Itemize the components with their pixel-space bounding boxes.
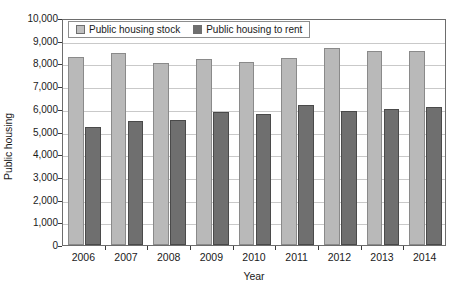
- bar-public-housing-stock: [239, 62, 255, 245]
- y-axis-tick-label: 7,000: [14, 82, 58, 92]
- x-axis-tick-label: 2012: [318, 251, 361, 263]
- bar-group: [106, 20, 149, 245]
- bar-group: [404, 20, 447, 245]
- y-axis-tick-mark: [58, 87, 62, 88]
- x-axis-tick-mark: [361, 246, 362, 250]
- bar-public-housing-to-rent: [256, 114, 272, 245]
- x-axis-tick-mark: [275, 246, 276, 250]
- bar-public-housing-stock: [153, 63, 169, 245]
- y-axis-tick-label: 0: [14, 241, 58, 251]
- legend-swatch-stock-icon: [76, 25, 85, 34]
- bar-public-housing-stock: [68, 57, 84, 245]
- y-axis-tick-label: 5,000: [14, 128, 58, 138]
- y-axis-tick-mark: [58, 223, 62, 224]
- bar-public-housing-to-rent: [298, 105, 314, 245]
- bar-public-housing-to-rent: [170, 120, 186, 245]
- y-axis-tick-mark: [58, 42, 62, 43]
- bar-public-housing-stock: [367, 51, 383, 245]
- plot-area: [62, 19, 446, 246]
- bar-chart: Public housing 01,0002,0003,0004,0005,00…: [0, 0, 463, 293]
- bar-public-housing-stock: [196, 59, 212, 245]
- y-axis-tick-mark: [58, 246, 62, 247]
- y-axis-tick-mark: [58, 155, 62, 156]
- x-axis-tick-label: 2009: [190, 251, 233, 263]
- x-axis-tick-label: 2008: [147, 251, 190, 263]
- y-axis-tick-labels: 01,0002,0003,0004,0005,0006,0007,0008,00…: [14, 0, 58, 293]
- x-axis-title: Year: [62, 270, 446, 282]
- bar-group: [319, 20, 362, 245]
- bar-group: [276, 20, 319, 245]
- bar-group: [234, 20, 277, 245]
- y-axis-tick-label: 9,000: [14, 37, 58, 47]
- bar-public-housing-stock: [409, 51, 425, 245]
- legend-entry: Public housing to rent: [193, 25, 302, 35]
- x-axis-tick-mark: [233, 246, 234, 250]
- y-axis-tick-mark: [58, 133, 62, 134]
- legend-label: Public housing to rent: [206, 25, 302, 35]
- legend-label: Public housing stock: [89, 25, 180, 35]
- bar-public-housing-to-rent: [341, 111, 357, 245]
- x-axis-tick-mark: [190, 246, 191, 250]
- bar-public-housing-to-rent: [426, 107, 442, 245]
- legend-swatch-rent-icon: [193, 25, 202, 34]
- x-axis-tick-mark: [105, 246, 106, 250]
- y-axis-tick-label: 6,000: [14, 105, 58, 115]
- bars-layer: [63, 20, 445, 245]
- x-axis-tick-mark: [147, 246, 148, 250]
- x-axis-tick-labels: 200620072008200920102011201220132014: [62, 251, 446, 265]
- y-axis-tick-label: 8,000: [14, 59, 58, 69]
- legend-entry: Public housing stock: [76, 25, 180, 35]
- x-axis-tick-mark: [318, 246, 319, 250]
- y-axis-tick-mark: [58, 64, 62, 65]
- bar-public-housing-stock: [324, 48, 340, 245]
- bar-public-housing-stock: [111, 53, 127, 245]
- x-axis-tick-label: 2007: [105, 251, 148, 263]
- y-axis-tick-label: 1,000: [14, 218, 58, 228]
- bar-public-housing-to-rent: [384, 109, 400, 245]
- y-axis-tick-label: 10,000: [14, 14, 58, 24]
- y-axis-tick-mark: [58, 178, 62, 179]
- bar-group: [148, 20, 191, 245]
- bar-group: [362, 20, 405, 245]
- y-axis-tick-label: 2,000: [14, 196, 58, 206]
- bar-public-housing-to-rent: [128, 121, 144, 245]
- y-axis-tick-mark: [58, 19, 62, 20]
- bar-public-housing-stock: [281, 58, 297, 245]
- bar-group: [191, 20, 234, 245]
- y-axis-tick-mark: [58, 201, 62, 202]
- x-axis-tick-label: 2006: [62, 251, 105, 263]
- bar-public-housing-to-rent: [213, 112, 229, 245]
- chart-legend: Public housing stockPublic housing to re…: [68, 21, 310, 38]
- x-axis-tick-label: 2010: [233, 251, 276, 263]
- y-axis-tick-label: 3,000: [14, 173, 58, 183]
- bar-group: [63, 20, 106, 245]
- y-axis-tick-label: 4,000: [14, 150, 58, 160]
- y-axis-tick-mark: [58, 110, 62, 111]
- x-axis-tick-label: 2014: [403, 251, 446, 263]
- x-axis-tick-mark: [403, 246, 404, 250]
- x-axis-tick-label: 2013: [361, 251, 404, 263]
- bar-public-housing-to-rent: [85, 127, 101, 245]
- x-axis-tick-label: 2011: [275, 251, 318, 263]
